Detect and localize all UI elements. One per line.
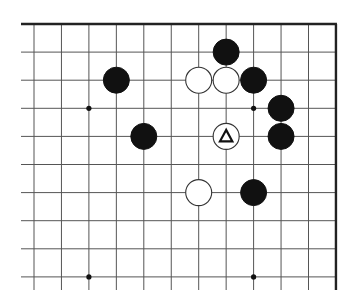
black-stone — [268, 95, 294, 121]
star-point — [86, 106, 91, 111]
black-stone — [213, 39, 239, 65]
black-stone — [241, 180, 267, 206]
black-stone — [103, 67, 129, 93]
black-stone — [268, 123, 294, 149]
board-edges — [21, 24, 337, 290]
white-stone — [213, 123, 239, 149]
white-stone — [213, 67, 239, 93]
board-grid — [21, 24, 336, 290]
black-stone — [241, 67, 267, 93]
white-stone — [186, 67, 212, 93]
go-board — [0, 0, 358, 307]
star-point — [251, 274, 256, 279]
white-stone — [186, 180, 212, 206]
star-point — [86, 274, 91, 279]
star-point — [251, 106, 256, 111]
black-stone — [131, 123, 157, 149]
